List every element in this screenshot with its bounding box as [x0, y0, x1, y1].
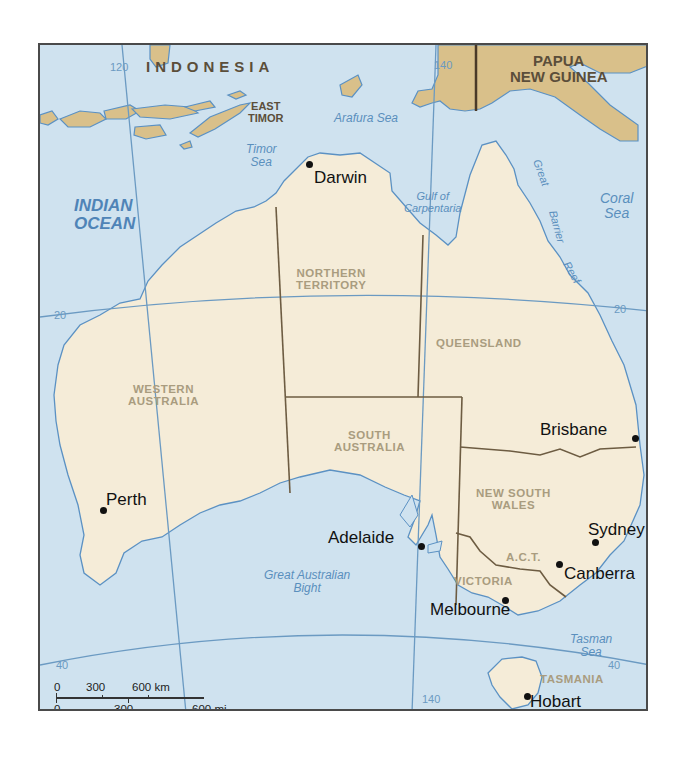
scale-bar-line: [56, 697, 204, 699]
scale-km-0: 0: [54, 681, 60, 693]
label-northern-territory: NORTHERN TERRITORY: [296, 267, 366, 291]
label-indian-ocean: INDIAN OCEAN: [74, 197, 135, 233]
label-bight-line1: Great Australian: [264, 569, 350, 582]
label-png-line2: NEW GUINEA: [510, 69, 608, 85]
label-sa-line1: SOUTH: [334, 429, 405, 441]
scale-mi-600: 600 mi: [192, 703, 227, 711]
label-timor-sea-line1: Timor: [246, 143, 277, 156]
graticule-label-40-right: 40: [608, 659, 620, 671]
graticule-label-40-left: 40: [56, 659, 68, 671]
label-png-line1: PAPUA: [510, 53, 608, 69]
label-indonesia: INDONESIA: [146, 59, 274, 75]
label-wa-line1: WESTERN: [128, 383, 199, 395]
label-east-timor: EAST TIMOR: [248, 101, 283, 124]
scale-mi-0: 0: [54, 703, 60, 711]
label-indian-ocean-line2: OCEAN: [74, 215, 135, 233]
label-wa-line2: AUSTRALIA: [128, 395, 199, 407]
label-tasman-sea: Tasman Sea: [570, 633, 612, 658]
scale-km-600: 600 km: [132, 681, 170, 693]
graticule-label-20-right: 20: [614, 303, 626, 315]
label-gulf-of-carpentaria: Gulf of Carpentaria: [404, 191, 461, 214]
label-new-south-wales: NEW SOUTH WALES: [476, 487, 551, 511]
city-marker-sydney: [592, 539, 599, 546]
label-south-australia: SOUTH AUSTRALIA: [334, 429, 405, 453]
label-city-adelaide: Adelaide: [328, 529, 394, 547]
label-western-australia: WESTERN AUSTRALIA: [128, 383, 199, 407]
scale-km-300: 300: [86, 681, 105, 693]
city-marker-darwin: [306, 161, 313, 168]
scale-tick-300km: [102, 695, 103, 699]
scale-bar: 0 300 600 km 0 300 600 mi: [52, 685, 252, 711]
city-marker-adelaide: [418, 543, 425, 550]
graticule-label-20-left: 20: [54, 309, 66, 321]
label-city-hobart: Hobart: [530, 693, 581, 711]
label-east-timor-line1: EAST: [248, 101, 283, 113]
map-canvas: [40, 45, 648, 711]
label-indian-ocean-line1: INDIAN: [74, 197, 135, 215]
label-timor-sea: Timor Sea: [246, 143, 277, 168]
graticule-label-120: 120: [110, 61, 128, 73]
label-east-timor-line2: TIMOR: [248, 113, 283, 125]
label-city-perth: Perth: [106, 491, 147, 509]
scale-mi-300: 300: [114, 703, 133, 711]
label-city-darwin: Darwin: [314, 169, 367, 187]
label-tasman-sea-line2: Sea: [570, 646, 612, 659]
label-nsw-line1: NEW SOUTH: [476, 487, 551, 499]
label-great-australian-bight: Great Australian Bight: [264, 569, 350, 594]
graticule-label-140-bottom: 140: [422, 693, 440, 705]
label-queensland: QUEENSLAND: [436, 337, 522, 349]
label-arafura-sea: Arafura Sea: [334, 112, 398, 125]
label-gulf-line1: Gulf of: [404, 191, 461, 203]
label-victoria: VICTORIA: [454, 575, 513, 587]
map-frame: INDONESIA EAST TIMOR PAPUA NEW GUINEA IN…: [38, 43, 648, 711]
label-nsw-line2: WALES: [476, 499, 551, 511]
label-bight-line2: Bight: [264, 582, 350, 595]
label-city-sydney: Sydney: [588, 521, 645, 539]
graticule-label-140-top: 140: [434, 59, 452, 71]
label-timor-sea-line2: Sea: [246, 156, 277, 169]
label-city-melbourne: Melbourne: [430, 601, 510, 619]
label-tasmania: TASMANIA: [540, 673, 604, 685]
scale-tick-600km: [148, 695, 149, 699]
label-tasman-sea-line1: Tasman: [570, 633, 612, 646]
label-coral-sea-line2: Sea: [600, 206, 633, 221]
label-act: A.C.T.: [506, 551, 541, 563]
label-nt-line1: NORTHERN: [296, 267, 366, 279]
city-marker-brisbane: [632, 435, 639, 442]
label-gulf-line2: Carpentaria: [404, 203, 461, 215]
label-city-brisbane: Brisbane: [540, 421, 607, 439]
label-papua-new-guinea: PAPUA NEW GUINEA: [510, 53, 608, 85]
city-marker-canberra: [556, 561, 563, 568]
scale-tick-0: [56, 693, 57, 703]
label-city-canberra: Canberra: [564, 565, 635, 583]
label-coral-sea: Coral Sea: [600, 191, 633, 220]
label-nt-line2: TERRITORY: [296, 279, 366, 291]
label-sa-line2: AUSTRALIA: [334, 441, 405, 453]
label-coral-sea-line1: Coral: [600, 191, 633, 206]
